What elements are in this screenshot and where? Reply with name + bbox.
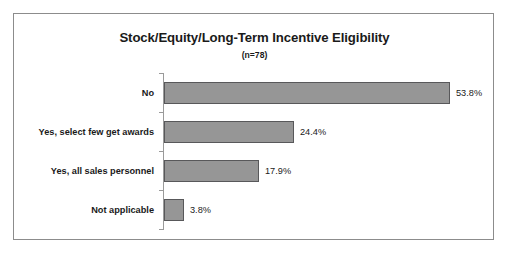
value-label: 3.8% — [190, 205, 211, 215]
category-label: No — [142, 88, 154, 98]
category-label: Not applicable — [91, 205, 154, 215]
chart-frame: Stock/Equity/Long-Term Incentive Eligibi… — [13, 13, 494, 240]
plot-area: No 53.8% Yes, select few get awards 24.4… — [163, 73, 483, 230]
bar — [164, 121, 294, 143]
chart-title: Stock/Equity/Long-Term Incentive Eligibi… — [14, 30, 495, 45]
value-label: 17.9% — [265, 166, 291, 176]
chart-subtitle: (n=78) — [14, 50, 495, 60]
bar — [164, 160, 259, 182]
bar-row: Not applicable 3.8% — [163, 190, 483, 229]
chart-figure: Stock/Equity/Long-Term Incentive Eligibi… — [0, 0, 511, 255]
bar-row: No 53.8% — [163, 73, 483, 112]
bar — [164, 82, 450, 104]
value-label: 53.8% — [456, 88, 482, 98]
bar-row: Yes, select few get awards 24.4% — [163, 112, 483, 151]
category-label: Yes, all sales personnel — [51, 166, 154, 176]
category-label: Yes, select few get awards — [39, 127, 154, 137]
bar-row: Yes, all sales personnel 17.9% — [163, 151, 483, 190]
axis-tick — [159, 229, 163, 230]
bar — [164, 199, 184, 221]
value-label: 24.4% — [300, 127, 326, 137]
